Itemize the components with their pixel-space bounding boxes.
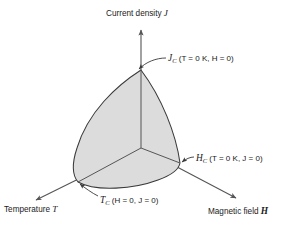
annotation-hc: HC (T = 0 K, J = 0) — [196, 153, 263, 164]
leader-line-jc — [139, 58, 166, 69]
axis-label-current-density-text: Current density — [106, 9, 162, 18]
axis-label-magnetic-field: Magnetic field H — [208, 206, 268, 216]
axis-symbol-magnetic-field: H — [261, 206, 268, 216]
critical-surface-body — [73, 70, 180, 188]
axis-label-current-density: Current density J — [106, 8, 168, 18]
annotation-hc-symbol: H — [196, 153, 203, 163]
axis-symbol-temperature: T — [52, 204, 57, 214]
annotation-tc: TC (H = 0, J = 0) — [100, 195, 158, 206]
annotation-jc: JC (T = 0 K, H = 0) — [168, 53, 234, 64]
annotation-hc-conditions: (T = 0 K, J = 0) — [209, 154, 262, 163]
annotation-tc-conditions: (H = 0, J = 0) — [112, 196, 159, 205]
annotation-hc-subscript: C — [203, 157, 207, 164]
axis-symbol-current-density: J — [164, 8, 168, 18]
annotation-jc-subscript: C — [172, 57, 176, 64]
annotation-jc-conditions: (T = 0 K, H = 0) — [179, 54, 234, 63]
axis-label-magnetic-field-text: Magnetic field — [208, 207, 259, 216]
superconductivity-phase-diagram-figure: Current density J Temperature T Magnetic… — [0, 0, 292, 230]
annotation-tc-subscript: C — [105, 199, 109, 206]
critical-surface-group — [73, 70, 180, 188]
leader-line-hc — [182, 157, 194, 162]
axis-label-temperature: Temperature T — [4, 204, 57, 214]
axis-label-temperature-text: Temperature — [4, 205, 50, 214]
